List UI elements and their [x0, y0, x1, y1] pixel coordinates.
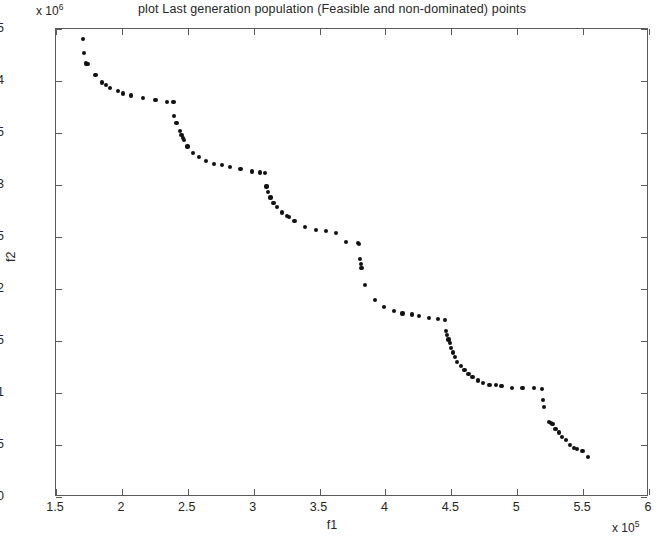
data-point [238, 167, 242, 171]
data-point [520, 386, 524, 390]
data-point [263, 171, 267, 175]
x-axis-tick-label: 2 [117, 500, 124, 514]
data-point [153, 98, 157, 102]
data-point [182, 138, 186, 142]
data-point [417, 314, 421, 318]
x-axis-tick [254, 29, 255, 35]
data-point [185, 144, 189, 148]
chart-title: plot Last generation population (Feasibl… [0, 2, 664, 16]
data-point [487, 383, 491, 387]
data-point [564, 438, 568, 442]
x-axis-tick-label: 5 [513, 500, 520, 514]
figure-canvas: plot Last generation population (Feasibl… [0, 0, 664, 544]
data-point [82, 51, 86, 55]
data-point [314, 228, 318, 232]
data-point [116, 89, 120, 93]
data-point [410, 312, 414, 316]
data-point [324, 229, 328, 233]
data-point [470, 375, 474, 379]
x-axis-tick [649, 29, 650, 35]
x-axis-tick [451, 489, 452, 495]
data-point [532, 386, 536, 390]
data-point [334, 231, 338, 235]
y-axis-tick [641, 497, 647, 498]
y-axis-tick-label: 3.5 [0, 125, 4, 139]
data-point [121, 91, 125, 95]
y-axis-tick-label: 2.5 [0, 229, 4, 243]
data-point [499, 384, 503, 388]
data-point [280, 210, 284, 214]
data-point [172, 114, 176, 118]
y-axis-tick-label: 2 [0, 281, 4, 295]
x-axis-tick [517, 29, 518, 35]
data-point [171, 100, 175, 104]
y-axis-tick [56, 133, 62, 134]
data-point [455, 360, 459, 364]
plot-area [55, 28, 648, 496]
data-point [344, 240, 348, 244]
data-point [436, 317, 440, 321]
x-axis-tick [320, 489, 321, 495]
y-axis-tick [641, 237, 647, 238]
x-axis-tick-label: 5.5 [573, 500, 590, 514]
y-axis-tick [641, 133, 647, 134]
data-point [382, 305, 386, 309]
x-axis-tick [56, 29, 57, 35]
data-point [197, 155, 201, 159]
y-axis-tick [641, 185, 647, 186]
y-axis-tick [641, 29, 647, 30]
data-point [357, 242, 361, 246]
y-axis-tick [641, 445, 647, 446]
y-axis-tick [56, 341, 62, 342]
x-axis-tick [385, 29, 386, 35]
data-point [550, 422, 554, 426]
data-point [165, 100, 169, 104]
x-axis-tick-label: 3 [249, 500, 256, 514]
y-axis-tick [56, 289, 62, 290]
x-axis-tick [188, 489, 189, 495]
y-exponent-power: 6 [59, 2, 64, 12]
data-point [141, 96, 145, 100]
data-point [174, 121, 178, 125]
y-axis-tick-label: 1.5 [0, 333, 4, 347]
y-axis-tick-label: 3 [0, 177, 4, 191]
x-axis-tick [517, 489, 518, 495]
data-point [271, 201, 275, 205]
data-point [228, 165, 232, 169]
data-point [445, 333, 449, 337]
y-axis-tick-label: 4 [0, 73, 4, 87]
y-axis-tick [641, 341, 647, 342]
y-axis-tick-label: 0 [0, 489, 4, 503]
data-point [541, 398, 545, 402]
x-axis-tick [122, 489, 123, 495]
data-point [400, 311, 404, 315]
data-point [451, 350, 455, 354]
data-point [303, 225, 307, 229]
data-point [476, 378, 480, 382]
x-axis-tick [583, 29, 584, 35]
data-point [427, 316, 431, 320]
x-axis-tick [56, 489, 57, 495]
data-point [108, 86, 112, 90]
data-point [359, 266, 363, 270]
data-point [392, 309, 396, 313]
data-point [93, 73, 97, 77]
y-axis-tick [56, 237, 62, 238]
x-axis-tick [188, 29, 189, 35]
data-point [292, 219, 296, 223]
y-axis-title: f2 [4, 252, 18, 262]
data-point [453, 355, 457, 359]
y-axis-tick [641, 393, 647, 394]
data-point [586, 455, 590, 459]
data-point [268, 195, 272, 199]
y-exponent-base: x 10 [36, 4, 59, 18]
x-axis-tick [385, 489, 386, 495]
data-point [220, 163, 224, 167]
x-axis-tick [254, 489, 255, 495]
data-point [443, 318, 447, 322]
data-point [575, 447, 579, 451]
y-axis-tick [641, 289, 647, 290]
y-axis-tick-label: 1 [0, 385, 4, 399]
data-point [204, 159, 208, 163]
data-point [373, 298, 377, 302]
